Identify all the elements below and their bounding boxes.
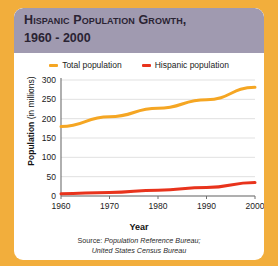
y-axis-tick-label: 100 bbox=[42, 152, 56, 162]
y-axis-label: Population (in millions) bbox=[26, 66, 36, 176]
legend-item-hispanic-population: Hispanic population bbox=[142, 60, 229, 70]
line-chart-svg: 05010015020025030019601970198019902000 bbox=[14, 72, 264, 222]
y-axis-tick-label: 200 bbox=[42, 114, 56, 124]
y-axis-tick-label: 250 bbox=[42, 94, 56, 104]
x-axis-label: Year bbox=[14, 222, 264, 232]
series-line-total-population bbox=[61, 87, 255, 126]
x-axis-tick-label: 1970 bbox=[100, 201, 119, 211]
legend-item-total-population: Total population bbox=[49, 60, 122, 70]
y-axis-tick-label: 50 bbox=[47, 172, 57, 182]
page-title: Hispanic Population Growth, bbox=[24, 13, 254, 28]
source-line-2: United States Census Bureau bbox=[92, 246, 187, 255]
source-prefix: Source: bbox=[77, 236, 104, 245]
y-axis-label-bold: Population bbox=[26, 122, 36, 166]
source-line-1: Population Reference Bureau; bbox=[104, 236, 200, 245]
series-line-hispanic-population bbox=[61, 182, 255, 193]
y-axis-tick-label: 300 bbox=[42, 75, 56, 85]
legend-swatch-total-population bbox=[49, 64, 58, 67]
chart-figure: Hispanic Population Growth, 1960 - 2000 … bbox=[0, 0, 278, 266]
x-axis-tick-label: 2000 bbox=[246, 201, 264, 211]
x-axis-tick-label: 1960 bbox=[52, 201, 71, 211]
chart-title-bar: Hispanic Population Growth, 1960 - 2000 bbox=[14, 8, 264, 53]
legend-label-total-population: Total population bbox=[62, 60, 122, 70]
y-axis-tick-label: 0 bbox=[51, 191, 56, 201]
legend-label-hispanic-population: Hispanic population bbox=[155, 60, 229, 70]
x-axis-tick-label: 1980 bbox=[149, 201, 168, 211]
y-axis-tick-label: 150 bbox=[42, 133, 56, 143]
y-axis-label-plain: (in millions) bbox=[26, 76, 36, 121]
source-note: Source: Population Reference Bureau; Uni… bbox=[14, 236, 264, 255]
page-subtitle: 1960 - 2000 bbox=[24, 30, 254, 46]
x-axis-tick-label: 1990 bbox=[197, 201, 216, 211]
chart-card: Hispanic Population Growth, 1960 - 2000 … bbox=[14, 8, 264, 260]
legend-swatch-hispanic-population bbox=[142, 64, 151, 67]
plot-area: Population (in millions) 050100150200250… bbox=[14, 72, 264, 222]
chart-legend: Total population Hispanic population bbox=[14, 57, 264, 73]
